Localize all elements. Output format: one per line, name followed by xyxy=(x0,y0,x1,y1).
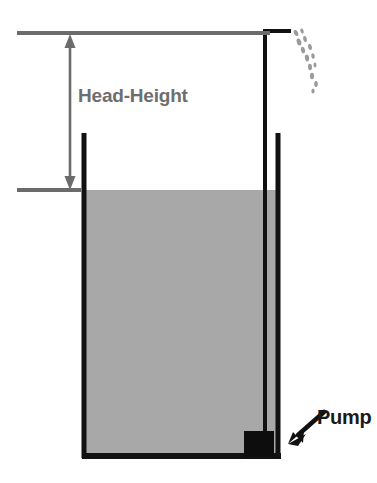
head-height-label: Head-Height xyxy=(78,86,188,105)
water-fill xyxy=(84,190,278,456)
head-height-pump-diagram: Head-Height Pump xyxy=(0,0,377,483)
pump-body xyxy=(244,431,274,457)
head-height-dimension-arrow xyxy=(65,34,76,190)
pump-label: Pump xyxy=(317,407,371,427)
water-droplets-icon xyxy=(293,28,318,94)
